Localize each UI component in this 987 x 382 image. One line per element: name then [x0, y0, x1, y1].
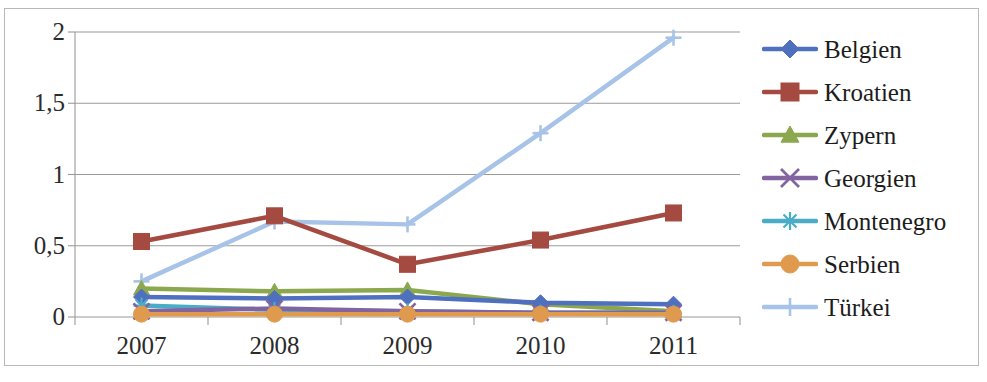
marker-circle [533, 306, 549, 322]
marker-circle [267, 306, 283, 322]
legend-key-svg [762, 35, 818, 63]
legend-item-label: Türkei [824, 295, 891, 320]
marker-shape [267, 208, 283, 224]
legend-key-svg [762, 78, 818, 106]
marker-shape [134, 306, 150, 322]
marker-shape [267, 306, 283, 322]
legend-marker-triangle-icon [762, 121, 818, 149]
marker-asterisk [781, 212, 799, 230]
marker-shape [533, 306, 549, 322]
marker-shape [533, 232, 549, 248]
marker-circle [134, 306, 150, 322]
legend-marker-diamond-icon [762, 35, 818, 63]
x-tick-label: 2010 [486, 333, 596, 358]
x-tick-label: 2009 [353, 333, 463, 358]
legend-item-label: Kroatien [824, 80, 911, 105]
chart-figure: 00,511,52 20072008200920102011 BelgienKr… [0, 0, 987, 382]
marker-circle [781, 255, 799, 273]
legend-key-svg [762, 121, 818, 149]
gridlines [75, 32, 740, 317]
marker-plus [781, 298, 799, 316]
y-tick-label: 0,5 [3, 233, 65, 258]
x-tick-label: 2011 [619, 333, 729, 358]
marker-shape [781, 40, 799, 58]
marker-shape [781, 255, 799, 273]
legend-item-label: Serbien [824, 252, 900, 277]
marker-shape [666, 205, 682, 221]
series-türkei [134, 30, 682, 290]
legend-item-türkei[interactable]: Türkei [762, 292, 891, 322]
marker-shape [400, 256, 416, 272]
marker-circle [666, 306, 682, 322]
marker-shape [781, 83, 799, 101]
legend-marker-square-icon [762, 78, 818, 106]
axis-lines [68, 32, 740, 325]
marker-square [134, 233, 150, 249]
y-tick-label: 0 [3, 304, 65, 329]
marker-square [666, 205, 682, 221]
x-tick-label: 2008 [220, 333, 330, 358]
legend-item-label: Belgien [824, 37, 902, 62]
legend-item-belgien[interactable]: Belgien [762, 34, 902, 64]
legend-marker-cross-x-icon [762, 164, 818, 192]
legend-key-svg [762, 164, 818, 192]
x-tick-label: 2007 [87, 333, 197, 358]
marker-circle [400, 306, 416, 322]
marker-shape [666, 306, 682, 322]
legend-item-kroatien[interactable]: Kroatien [762, 77, 911, 107]
marker-square [267, 208, 283, 224]
legend-key-svg [762, 250, 818, 278]
legend-item-zypern[interactable]: Zypern [762, 120, 896, 150]
legend-item-label: Montenegro [824, 209, 946, 234]
y-tick-label: 1 [3, 162, 65, 187]
marker-square [533, 232, 549, 248]
legend-marker-circle-icon [762, 250, 818, 278]
legend-item-label: Georgien [824, 166, 917, 191]
marker-square [400, 256, 416, 272]
series-line [142, 38, 674, 282]
marker-diamond [781, 40, 799, 58]
legend-item-serbien[interactable]: Serbien [762, 249, 900, 279]
marker-shape [134, 233, 150, 249]
series-kroatien [134, 205, 682, 272]
marker-shape [400, 306, 416, 322]
marker-square [781, 83, 799, 101]
legend-item-label: Zypern [824, 123, 896, 148]
legend-key-svg [762, 207, 818, 235]
legend-item-montenegro[interactable]: Montenegro [762, 206, 946, 236]
legend-marker-plus-icon [762, 293, 818, 321]
y-tick-label: 2 [3, 19, 65, 44]
y-tick-label: 1,5 [3, 90, 65, 115]
legend-marker-asterisk-icon [762, 207, 818, 235]
legend-key-svg [762, 293, 818, 321]
chart-legend: BelgienKroatienZypernGeorgienMontenegroS… [762, 34, 984, 344]
legend-item-georgien[interactable]: Georgien [762, 163, 917, 193]
